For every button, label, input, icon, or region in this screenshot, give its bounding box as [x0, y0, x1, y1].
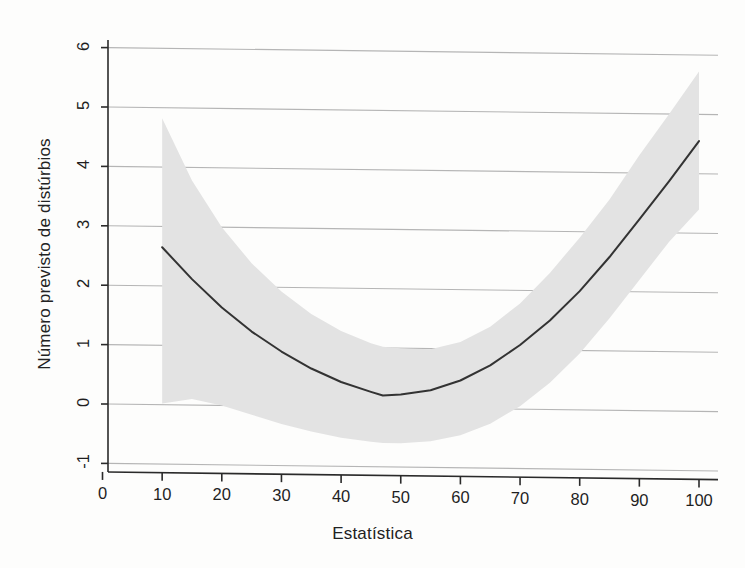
confidence-band	[162, 72, 699, 444]
x-axis-tick-label-90: 90	[619, 491, 659, 510]
x-axis-tick-label-60: 60	[440, 488, 480, 507]
gridline-y-4	[108, 166, 718, 174]
y-axis-tick-label-5: 5	[74, 89, 93, 123]
x-axis-tick-label-30: 30	[261, 486, 301, 505]
chart-figure: -10123456 0102030405060708090100 Número …	[0, 0, 745, 568]
x-axis-tick-label-40: 40	[321, 487, 361, 506]
x-axis-tick-label-0: 0	[83, 484, 123, 503]
y-axis-tick-label-3: 3	[74, 207, 93, 241]
y-axis-tick-label-4: 4	[74, 148, 93, 182]
x-axis-tick-label-80: 80	[560, 490, 600, 509]
x-axis-title: Estatística	[0, 524, 745, 544]
x-axis-tick-label-100: 100	[679, 491, 719, 510]
gridline-y--1	[108, 463, 718, 471]
y-axis-tick-label-6: 6	[74, 29, 93, 63]
y-axis-tick-label-1: 1	[74, 326, 93, 360]
gridline-y-6	[108, 48, 718, 56]
chart-plot-area	[0, 0, 745, 568]
y-axis-tick-label-0: 0	[74, 386, 93, 420]
x-axis-spine	[108, 472, 718, 480]
gridline-y-5	[108, 107, 718, 115]
y-axis-tick-label--1: -1	[74, 445, 93, 479]
x-axis-tick-label-10: 10	[142, 485, 182, 504]
y-axis-tick-label-2: 2	[74, 267, 93, 301]
y-axis-title: Número previsto de distúrbios	[35, 104, 55, 404]
x-axis-tick-label-20: 20	[202, 485, 242, 504]
x-axis-tick-label-50: 50	[381, 488, 421, 507]
confidence-band-area	[162, 72, 699, 444]
x-axis-tick-label-70: 70	[500, 489, 540, 508]
